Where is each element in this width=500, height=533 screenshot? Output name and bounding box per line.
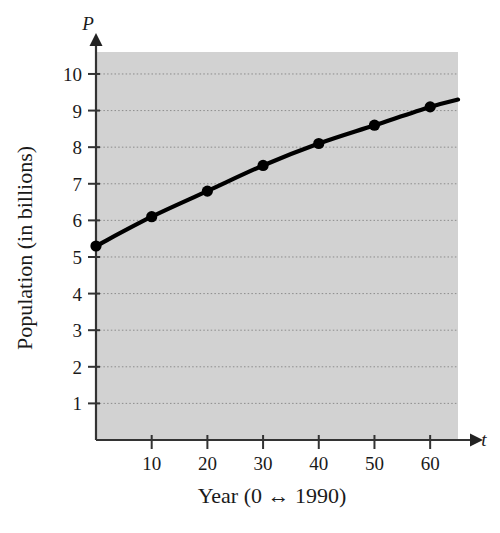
data-point-t40 bbox=[313, 138, 324, 149]
y-tick-label-2: 2 bbox=[73, 357, 83, 378]
y-tick-label-8: 8 bbox=[73, 137, 83, 158]
chart-canvas: 12345678910 102030405060 P t Year (0 ↔ 1… bbox=[0, 0, 500, 533]
y-tick-label-9: 9 bbox=[73, 101, 83, 122]
y-tick-label-7: 7 bbox=[73, 174, 83, 195]
y-tick-label-4: 4 bbox=[73, 284, 83, 305]
y-tick-label-1: 1 bbox=[73, 393, 83, 414]
y-tick-label-6: 6 bbox=[73, 210, 83, 231]
x-tick-label-60: 60 bbox=[421, 453, 440, 474]
data-point-t60 bbox=[425, 101, 436, 112]
y-axis-tick-labels: 12345678910 bbox=[63, 64, 83, 414]
data-point-t20 bbox=[202, 185, 213, 196]
y-tick-label-3: 3 bbox=[73, 320, 83, 341]
data-point-t50 bbox=[369, 120, 380, 131]
data-point-t0 bbox=[90, 240, 101, 251]
data-point-t30 bbox=[257, 160, 268, 171]
x-tick-label-40: 40 bbox=[309, 453, 328, 474]
y-tick-label-5: 5 bbox=[73, 247, 83, 268]
data-point-t10 bbox=[146, 211, 157, 222]
y-tick-label-10: 10 bbox=[63, 64, 82, 85]
x-tick-label-20: 20 bbox=[198, 453, 217, 474]
population-growth-figure: 12345678910 102030405060 P t Year (0 ↔ 1… bbox=[0, 0, 500, 533]
x-axis-tick-labels: 102030405060 bbox=[142, 453, 439, 474]
x-axis-title: Year (0 ↔ 1990) bbox=[198, 483, 347, 508]
y-axis-variable-label: P bbox=[81, 13, 94, 34]
y-axis-title: Population (in billions) bbox=[12, 146, 37, 350]
x-tick-label-30: 30 bbox=[254, 453, 273, 474]
x-axis-variable-label: t bbox=[481, 429, 487, 450]
x-tick-label-10: 10 bbox=[142, 453, 161, 474]
x-tick-label-50: 50 bbox=[365, 453, 384, 474]
